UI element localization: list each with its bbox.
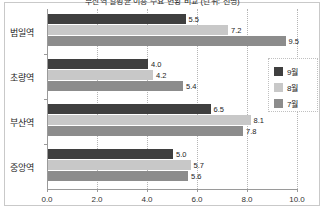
chart-screenshot: 부산역 일평균 이용 수요 현황 비교 (단위: 천명) 0.02.04.06.… — [0, 0, 325, 211]
bar-value-label: 6.5 — [214, 104, 224, 113]
y-axis-tick — [44, 144, 47, 145]
bar — [48, 81, 183, 91]
x-axis-tick-label: 8.0 — [241, 195, 252, 204]
legend-swatch-icon — [274, 67, 283, 76]
bar-value-label: 5.6 — [191, 171, 201, 180]
x-axis-tick-label: 4.0 — [141, 195, 152, 204]
bar — [48, 59, 148, 69]
bar — [48, 104, 211, 114]
y-axis-category-label: 초량역 — [0, 70, 44, 83]
y-axis-category-label: 부산역 — [0, 115, 44, 128]
x-axis-tick — [247, 189, 248, 192]
chart-title: 부산역 일평균 이용 수요 현황 비교 (단위: 천명) — [0, 0, 325, 6]
x-axis-tick — [97, 189, 98, 192]
bar — [48, 25, 228, 35]
x-axis-tick-label: 0.0 — [41, 195, 52, 204]
bar — [48, 70, 153, 80]
legend-swatch-icon — [274, 83, 283, 92]
legend-label: 9월 — [287, 66, 298, 77]
x-axis-tick-label: 2.0 — [91, 195, 102, 204]
bar-value-label: 8.1 — [254, 115, 264, 124]
bar — [48, 171, 188, 181]
y-axis-tick — [44, 99, 47, 100]
plot-area: 0.02.04.06.08.010.05.57.29.54.04.25.46.5… — [47, 9, 297, 189]
bar — [48, 126, 243, 136]
y-axis-tick — [44, 54, 47, 55]
bar-value-label: 5.5 — [189, 14, 199, 23]
bar — [48, 160, 191, 170]
bar — [48, 36, 286, 46]
bar — [48, 14, 186, 24]
x-axis-tick — [147, 189, 148, 192]
legend-swatch-icon — [274, 99, 283, 108]
x-axis-tick-label: 10.0 — [289, 195, 305, 204]
legend-label: 8월 — [287, 82, 298, 93]
bar — [48, 149, 173, 159]
x-axis-tick — [197, 189, 198, 192]
x-axis-line — [47, 189, 298, 190]
y-axis-category-label: 중앙역 — [0, 160, 44, 173]
legend-item[interactable]: 8월 — [274, 82, 298, 93]
x-axis-tick-label: 6.0 — [191, 195, 202, 204]
x-axis-tick — [47, 189, 48, 192]
legend-item[interactable]: 9월 — [274, 66, 298, 77]
legend-item[interactable]: 7월 — [274, 98, 298, 109]
bar-value-label: 4.0 — [151, 59, 161, 68]
y-axis-category-label: 범일역 — [0, 25, 44, 38]
bar-value-label: 7.2 — [231, 25, 241, 34]
bar-value-label: 5.7 — [194, 160, 204, 169]
bar-value-label: 7.8 — [246, 126, 256, 135]
bar-value-label: 5.0 — [176, 149, 186, 158]
bar-value-label: 4.2 — [156, 70, 166, 79]
bar-value-label: 9.5 — [289, 36, 299, 45]
chart-legend: 9월8월7월 — [268, 58, 318, 112]
bar — [48, 115, 251, 125]
x-axis-tick — [297, 189, 298, 192]
legend-label: 7월 — [287, 98, 298, 109]
bar-value-label: 5.4 — [186, 81, 196, 90]
